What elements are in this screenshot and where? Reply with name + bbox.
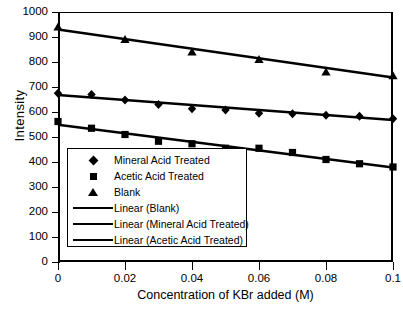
legend-label: Linear (Acetic Acid Treated) — [114, 235, 243, 246]
data-point-square — [54, 118, 61, 125]
legend-marker-line — [73, 223, 113, 225]
data-point-square — [255, 145, 262, 152]
legend-label: Acetic Acid Treated — [114, 171, 204, 182]
data-point-triangle — [388, 71, 397, 79]
data-point-diamond — [389, 114, 397, 123]
data-point-diamond — [121, 95, 129, 104]
legend-key — [72, 239, 114, 241]
legend-item: Acetic Acid Treated — [68, 168, 246, 184]
legend-key — [72, 157, 114, 164]
data-point-square — [188, 140, 195, 147]
legend-label: Linear (Mineral Acid Treated) — [114, 219, 249, 230]
data-point-square — [155, 138, 162, 145]
legend-key — [72, 173, 114, 180]
legend-marker-line — [73, 207, 113, 209]
chart-legend: Mineral Acid TreatedAcetic Acid TreatedB… — [67, 148, 247, 247]
legend-label: Mineral Acid Treated — [114, 155, 210, 166]
legend-label: Linear (Blank) — [114, 203, 179, 214]
data-point-triangle — [53, 22, 62, 30]
data-point-square — [121, 131, 128, 138]
data-point-diamond — [288, 109, 296, 118]
legend-marker-line — [73, 239, 113, 241]
data-point-square — [322, 156, 329, 163]
data-point-square — [389, 163, 396, 170]
legend-item: Linear (Acetic Acid Treated) — [68, 232, 246, 248]
data-point-square — [356, 160, 363, 167]
data-point-diamond — [355, 112, 363, 121]
data-series — [54, 89, 397, 124]
legend-key — [72, 207, 114, 209]
legend-key — [72, 188, 114, 196]
legend-item: Mineral Acid Treated — [68, 152, 246, 168]
legend-item: Linear (Blank) — [68, 200, 246, 216]
data-point-square — [289, 149, 296, 156]
legend-item: Linear (Mineral Acid Treated) — [68, 216, 246, 232]
data-point-diamond — [322, 111, 330, 120]
trendline — [58, 30, 393, 78]
chart-figure: Intensity Concentration of KBr added (M)… — [0, 0, 403, 312]
legend-item: Blank — [68, 184, 246, 200]
legend-label: Blank — [114, 187, 140, 198]
data-point-square — [88, 125, 95, 132]
legend-key — [72, 223, 114, 225]
legend-marker-diamond — [88, 155, 98, 165]
legend-marker-square — [90, 173, 97, 180]
legend-marker-triangle — [88, 188, 98, 196]
